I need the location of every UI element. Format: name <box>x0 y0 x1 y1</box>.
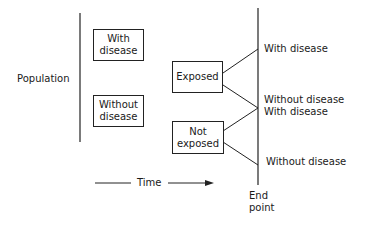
with-disease-line1: With <box>107 33 130 45</box>
exposed-to-without-disease <box>223 85 258 108</box>
without-disease-line2: disease <box>100 111 138 123</box>
with-disease-line2: disease <box>100 45 138 57</box>
outcome-not-exposed-without-disease: Without disease <box>266 156 346 168</box>
not-exposed-line1: Not <box>189 126 207 138</box>
exposed-box: Exposed <box>172 61 223 93</box>
not-exposed-line2: exposed <box>177 138 219 150</box>
outcome-not-exposed-with-disease: With disease <box>264 106 328 118</box>
exposed-label: Exposed <box>176 71 218 83</box>
end-point-label: End point <box>249 190 275 214</box>
with-disease-box: With disease <box>93 29 144 61</box>
end-point-line1: End <box>249 190 275 202</box>
time-arrow-icon <box>205 180 214 186</box>
end-point-line2: point <box>249 202 275 214</box>
exposed-to-with-disease <box>223 49 258 73</box>
without-disease-box: Without disease <box>93 95 144 127</box>
not-exposed-box: Not exposed <box>172 121 224 154</box>
time-label: Time <box>137 177 161 189</box>
outcome-exposed-without-disease: Without disease <box>264 94 344 106</box>
not-exposed-to-without-disease <box>223 142 258 165</box>
outcome-exposed-with-disease: With disease <box>264 43 328 55</box>
not-exposed-to-with-disease <box>223 108 258 131</box>
without-disease-line1: Without <box>99 99 138 111</box>
population-label: Population <box>17 73 70 85</box>
